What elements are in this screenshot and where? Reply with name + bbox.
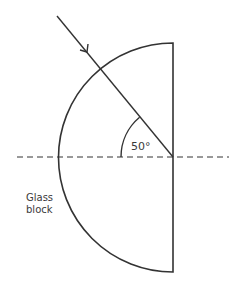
glass-block-label-line2: block bbox=[26, 204, 53, 215]
diagram-canvas: 50° Glass block bbox=[0, 0, 235, 290]
light-ray bbox=[57, 16, 173, 157]
glass-block-label-line1: Glass bbox=[26, 192, 53, 203]
angle-label: 50° bbox=[131, 140, 151, 153]
glass-block-outline bbox=[59, 43, 174, 272]
